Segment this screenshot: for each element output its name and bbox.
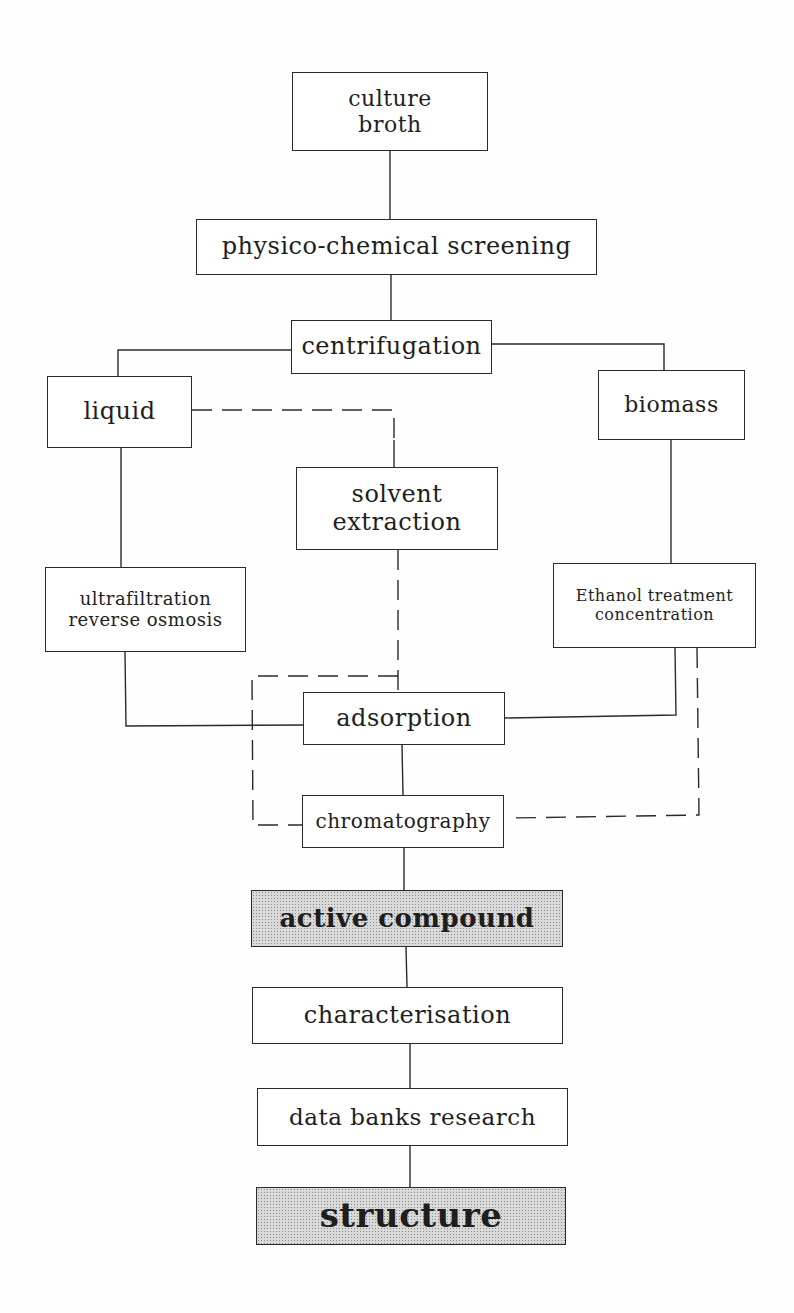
node-characterisation: characterisation bbox=[252, 987, 563, 1044]
edge-ethanol-chromatography-dashed bbox=[510, 648, 699, 818]
node-label: broth bbox=[358, 112, 421, 137]
node-label: data banks research bbox=[289, 1104, 536, 1130]
node-chromatography: chromatography bbox=[302, 795, 504, 848]
edge-centrifugation-liquid bbox=[118, 350, 291, 376]
node-label: centrifugation bbox=[301, 333, 481, 361]
node-solvent-extraction: solvent extraction bbox=[296, 467, 498, 550]
node-ethanol-treatment-concentration: Ethanol treatment concentration bbox=[553, 563, 756, 648]
edge-active-characterisation bbox=[406, 947, 407, 987]
node-data-banks-research: data banks research bbox=[257, 1088, 568, 1146]
node-label: culture bbox=[348, 86, 432, 111]
node-label: physico-chemical screening bbox=[222, 233, 572, 261]
node-label: solvent bbox=[352, 481, 443, 509]
edge-ultrafiltration-adsorption bbox=[125, 652, 303, 726]
node-structure: structure bbox=[256, 1187, 566, 1245]
node-label: biomass bbox=[624, 392, 718, 417]
node-label: concentration bbox=[595, 606, 714, 624]
node-culture-broth: culture broth bbox=[292, 72, 488, 151]
node-adsorption: adsorption bbox=[303, 692, 505, 745]
node-label: Ethanol treatment bbox=[576, 587, 733, 605]
node-label: structure bbox=[320, 1196, 503, 1235]
node-label: extraction bbox=[333, 509, 462, 537]
node-ultrafiltration-reverse-osmosis: ultrafiltration reverse osmosis bbox=[45, 567, 246, 652]
node-centrifugation: centrifugation bbox=[291, 320, 492, 374]
node-physico-chemical-screening: physico-chemical screening bbox=[196, 219, 597, 275]
node-label: characterisation bbox=[304, 1002, 511, 1030]
flowchart-canvas: culture broth physico-chemical screening… bbox=[0, 0, 794, 1313]
node-label: adsorption bbox=[336, 705, 472, 733]
edge-liquid-solvent-dashed bbox=[192, 410, 394, 440]
edge-ethanol-adsorption bbox=[505, 648, 676, 718]
edge-centrifugation-biomass bbox=[492, 344, 664, 370]
node-biomass: biomass bbox=[598, 370, 745, 440]
node-label: chromatography bbox=[316, 810, 491, 833]
node-label: ultrafiltration bbox=[80, 589, 212, 610]
node-label: active compound bbox=[280, 904, 535, 934]
edge-adsorption-chromatography bbox=[402, 745, 403, 795]
node-label: reverse osmosis bbox=[68, 610, 222, 631]
node-active-compound: active compound bbox=[251, 890, 563, 947]
node-liquid: liquid bbox=[47, 376, 192, 448]
node-label: liquid bbox=[83, 398, 155, 426]
